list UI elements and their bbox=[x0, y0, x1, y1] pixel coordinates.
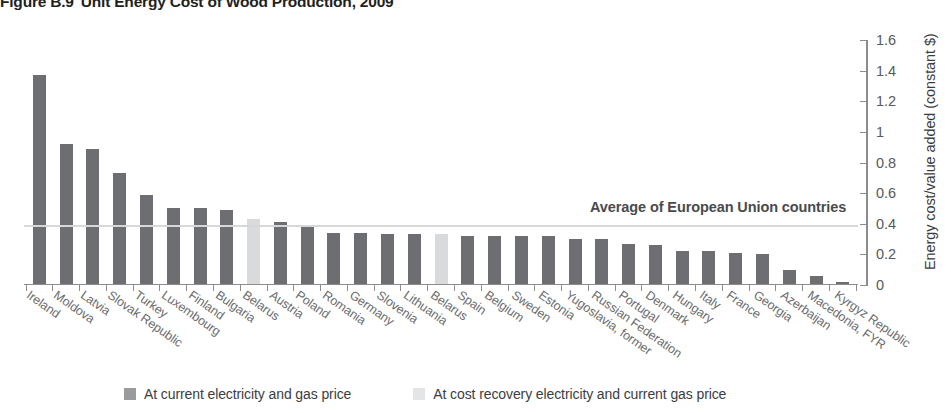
bar-current-price bbox=[756, 254, 769, 285]
bar-slot bbox=[374, 40, 401, 285]
legend-swatch-icon-current bbox=[124, 388, 136, 400]
eu-average-reference-line bbox=[24, 225, 858, 227]
bar-slot bbox=[722, 40, 749, 285]
bar-slot bbox=[776, 40, 803, 285]
legend-swatch-icon-cost-recovery bbox=[413, 388, 425, 400]
chart-legend: At current electricity and gas price At … bbox=[124, 386, 726, 402]
bar-slot bbox=[481, 40, 508, 285]
y-axis-tick bbox=[860, 101, 866, 102]
bar-current-price bbox=[783, 270, 796, 285]
bar-cost-recovery bbox=[435, 234, 448, 285]
bar-slot bbox=[53, 40, 80, 285]
eu-average-label: Average of European Union countries bbox=[590, 199, 846, 215]
bar-current-price bbox=[595, 239, 608, 285]
figure-number: Figure B.9 bbox=[0, 0, 74, 10]
y-axis-tick bbox=[860, 132, 866, 133]
y-axis-tick bbox=[860, 71, 866, 72]
bar-current-price bbox=[515, 236, 528, 285]
y-axis-tick-label: 1.6 bbox=[876, 32, 896, 48]
figure-container: Figure B.9Unit Energy Cost of Wood Produ… bbox=[0, 0, 951, 413]
bar-slot bbox=[267, 40, 294, 285]
bar-slot bbox=[588, 40, 615, 285]
bar-current-price bbox=[301, 225, 314, 285]
bar-slot bbox=[696, 40, 723, 285]
y-axis-tick-label: 1.4 bbox=[876, 63, 896, 79]
y-axis-tick-label: 1.2 bbox=[876, 93, 896, 109]
bar-slot bbox=[26, 40, 53, 285]
bar-slot bbox=[106, 40, 133, 285]
bar-slot bbox=[213, 40, 240, 285]
bar-current-price bbox=[327, 233, 340, 285]
bar-slot bbox=[133, 40, 160, 285]
y-axis-tick bbox=[860, 254, 866, 255]
bar-slot bbox=[642, 40, 669, 285]
bar-slot bbox=[294, 40, 321, 285]
chart-plot-inner bbox=[24, 40, 858, 285]
bar-slot bbox=[160, 40, 187, 285]
bar-slot bbox=[401, 40, 428, 285]
bar-current-price bbox=[113, 173, 126, 285]
y-axis-tick-label: 0.8 bbox=[876, 155, 896, 171]
legend-label-cost-recovery: At cost recovery electricity and current… bbox=[433, 386, 726, 402]
bar-current-price bbox=[729, 253, 742, 285]
bar-slot bbox=[669, 40, 696, 285]
figure-title-text: Unit Energy Cost of Wood Production, 200… bbox=[81, 0, 394, 10]
bar-slot bbox=[535, 40, 562, 285]
bar-slot bbox=[187, 40, 214, 285]
legend-item-cost-recovery: At cost recovery electricity and current… bbox=[413, 386, 726, 402]
bar-current-price bbox=[33, 75, 46, 285]
bar-current-price bbox=[461, 236, 474, 285]
bar-current-price bbox=[542, 236, 555, 285]
bar-slot bbox=[428, 40, 455, 285]
legend-label-current: At current electricity and gas price bbox=[144, 386, 351, 402]
bar-slot bbox=[508, 40, 535, 285]
bar-current-price bbox=[488, 236, 501, 285]
bar-current-price bbox=[569, 239, 582, 285]
bar-current-price bbox=[622, 244, 635, 285]
y-axis-tick bbox=[860, 224, 866, 225]
bar-slot bbox=[749, 40, 776, 285]
y-axis-tick-label: 0.4 bbox=[876, 216, 896, 232]
bar-current-price bbox=[676, 251, 689, 285]
bar-current-price bbox=[220, 210, 233, 285]
bar-current-price bbox=[194, 208, 207, 285]
legend-item-current: At current electricity and gas price bbox=[124, 386, 351, 402]
bar-slot bbox=[829, 40, 856, 285]
bar-slot bbox=[80, 40, 107, 285]
bar-slot bbox=[615, 40, 642, 285]
bar-slot bbox=[455, 40, 482, 285]
page-title: Figure B.9Unit Energy Cost of Wood Produ… bbox=[0, 0, 394, 11]
y-axis-title: Energy cost/value added (constant $) bbox=[922, 20, 938, 270]
bar-current-price bbox=[274, 222, 287, 285]
y-axis-tick bbox=[860, 193, 866, 194]
bar-slot bbox=[562, 40, 589, 285]
y-axis-tick-label: 1 bbox=[876, 124, 884, 140]
bar-current-price bbox=[381, 234, 394, 285]
y-axis-tick bbox=[860, 163, 866, 164]
bar-cost-recovery bbox=[247, 219, 260, 285]
bar-slot bbox=[347, 40, 374, 285]
bar-current-price bbox=[140, 195, 153, 285]
bar-slot bbox=[803, 40, 830, 285]
bar-current-price bbox=[60, 144, 73, 285]
y-axis-tick-label: 0.2 bbox=[876, 246, 896, 262]
bar-slot bbox=[321, 40, 348, 285]
bar-group bbox=[24, 40, 858, 285]
bar-slot bbox=[240, 40, 267, 285]
y-axis-tick-label: 0.6 bbox=[876, 185, 896, 201]
y-axis-tick bbox=[860, 285, 866, 286]
x-axis-labels: IrelandMoldovaLatviaSlovak RepublicTurke… bbox=[24, 288, 858, 388]
bar-current-price bbox=[86, 149, 99, 285]
y-axis-tick bbox=[860, 40, 866, 41]
bar-current-price bbox=[702, 251, 715, 285]
y-axis: 00.20.40.60.811.21.41.6 bbox=[866, 40, 868, 286]
bar-current-price bbox=[408, 234, 421, 285]
bar-current-price bbox=[354, 233, 367, 285]
bar-current-price bbox=[649, 245, 662, 285]
bar-current-price bbox=[167, 208, 180, 285]
y-axis-tick-label: 0 bbox=[876, 277, 884, 293]
chart-plot-area bbox=[24, 40, 858, 285]
